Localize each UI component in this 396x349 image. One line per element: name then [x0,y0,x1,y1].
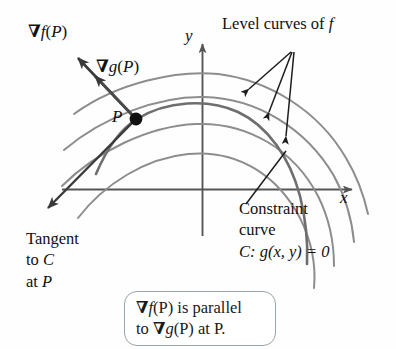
tangent-line-2: to C [26,249,79,270]
tangent-line-3: at P [26,271,79,292]
note-line-1-rest: (P) is parallel [153,298,242,317]
point-arg: P [51,22,61,41]
gradient-f-label: ∇f(P) [28,22,67,42]
y-axis-label: y [185,26,193,46]
nabla-symbol: ∇ [96,57,109,76]
note-line-1: ∇f(P) is parallel [136,297,265,318]
level-curves-text: Level curves of [222,14,329,33]
leader-line-constraint [246,151,286,204]
nabla-symbol: ∇ [28,22,41,41]
gradient-g-label: ∇g(P) [96,57,139,77]
point-name-p: P [42,272,52,291]
note-to-text: to [136,319,153,338]
tangent-line [48,119,136,208]
lagrange-multiplier-figure: ∇f(P) ∇g(P) P y x Level curves of f Cons… [0,0,396,349]
paren-close: ) [133,57,139,76]
level-curves-label: Level curves of f [222,14,333,33]
nabla-symbol: ∇ [136,298,148,317]
nabla-symbol: ∇ [153,319,165,338]
tangent-label: Tangent to C at P [26,228,79,292]
constraint-line-1: Constraint [239,198,329,219]
curve-name-c: C [43,250,54,269]
constraint-line-2: curve [239,219,329,240]
paren-close: ) [62,22,68,41]
tangent-line-1: Tangent [26,228,79,249]
tangent-to-text: to [26,250,43,269]
point-arg: P [123,57,133,76]
constraint-line-3: C: g(x, y) = 0 [239,241,329,262]
constraint-curve-label: Constraint curve C: g(x, y) = 0 [239,198,329,262]
curve-name-c: C [239,242,250,261]
parallel-gradients-note-box: ∇f(P) is parallel to ∇g(P) at P. [124,291,276,346]
point-p-dot [130,113,143,126]
tangent-line-group [48,119,136,208]
x-axis-label: x [340,188,348,208]
function-f: f [329,14,334,33]
tangent-at-text: at [26,272,42,291]
constraint-leader-line-group [246,151,286,204]
note-line-2: to ∇g(P) at P. [136,318,265,339]
function-g: g [165,319,173,338]
level-curve-1 [74,73,368,214]
note-line-2-rest: (P) at P. [174,319,226,338]
constraint-equation: : g(x, y) = 0 [250,242,329,261]
point-p-label: P [112,107,122,127]
